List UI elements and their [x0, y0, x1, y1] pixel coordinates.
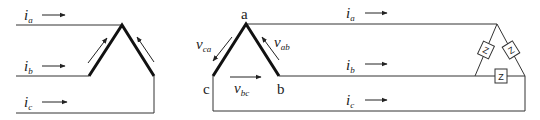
delta-connection-diagram: ia ib ic a b c vca vab vbc ia ib ic — [0, 0, 540, 120]
node-label-b: b — [277, 81, 285, 97]
current-label-ib: ib — [24, 58, 33, 76]
load-impedance-ab: Z — [478, 41, 495, 59]
source-delta-winding — [213, 24, 279, 76]
load-impedance-ca: Z — [502, 41, 520, 59]
current-label-ib: ib — [346, 57, 355, 75]
left-delta-panel: ia ib ic — [16, 7, 154, 113]
winding-current-arrow-right — [137, 37, 154, 62]
delta-winding — [89, 25, 154, 76]
load-impedance-bc: Z — [495, 69, 507, 83]
current-label-ic: ic — [346, 92, 354, 110]
voltage-label-vbc: vbc — [234, 80, 249, 98]
voltage-label-vab: vab — [274, 34, 290, 52]
current-label-ia: ia — [24, 7, 33, 25]
svg-text:Z: Z — [498, 72, 504, 82]
node-label-a: a — [241, 6, 248, 22]
load-delta: Z Z Z — [475, 24, 525, 83]
node-label-c: c — [203, 81, 210, 97]
current-label-ic: ic — [24, 94, 32, 112]
voltage-label-vca: vca — [196, 36, 212, 54]
current-label-ia: ia — [346, 5, 355, 23]
right-delta-panel: a b c vca vab vbc ia ib ic Z Z — [196, 5, 525, 111]
